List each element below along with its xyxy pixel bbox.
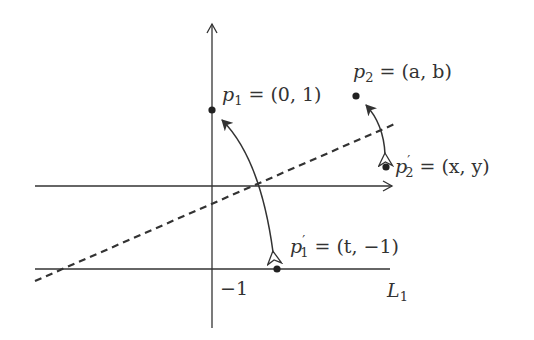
- point-p1: [208, 106, 215, 113]
- dashed-mirror-line: [35, 123, 397, 281]
- tick-label-minus-one: −1: [220, 277, 248, 299]
- label-p2-prime: p′2 = (x, y): [395, 153, 490, 180]
- point-p2-prime: [382, 163, 389, 170]
- label-p2: p2 = (a, b): [353, 60, 452, 85]
- point-p1-prime: [273, 265, 280, 272]
- label-p1-prime: p′1 = (t, −1): [290, 233, 399, 260]
- reflection-diagram: p1 = (0, 1) p2 = (a, b) p′2 = (x, y) p′1…: [0, 0, 534, 340]
- label-p1: p1 = (0, 1): [222, 83, 322, 108]
- point-p2: [352, 92, 359, 99]
- label-L1: L1: [386, 279, 408, 304]
